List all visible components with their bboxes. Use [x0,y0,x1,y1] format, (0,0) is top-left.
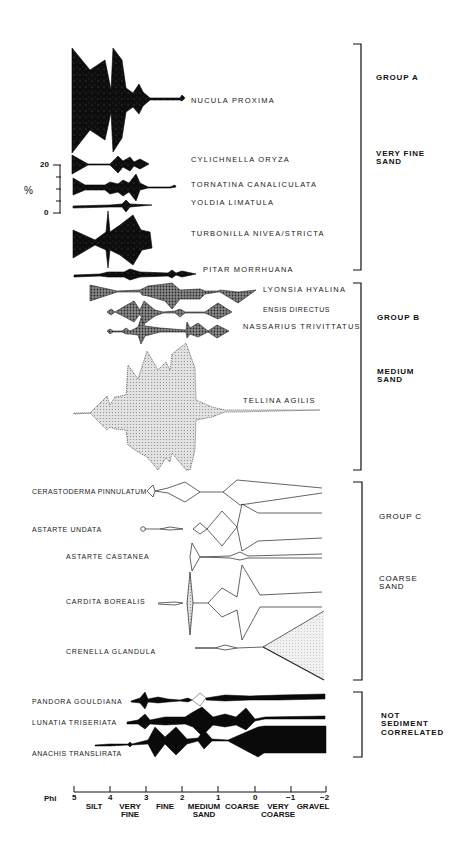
species-label: PANDORA GOULDIANA [32,698,123,705]
kite-turbonilla-nivea-stricta [73,211,152,268]
species-label: LUNATIA TRISERIATA [32,719,117,726]
scale-max-label: 20 [40,161,49,169]
class-coarse: COARSE [224,803,260,811]
class-gravel: GRAVEL [296,803,330,811]
group-b-title: GROUP B [377,314,420,322]
phi-tick-neg1: −1 [286,794,295,802]
class-very-coarse: VERY COARSE [260,803,296,820]
group-brackets [353,44,362,757]
kite-tellina-agilis [74,343,320,470]
species-label: YOLDIA LIMATULA [191,199,274,207]
kite-cerastoderma-pinnulatum [147,480,322,505]
phi-tick-5: 5 [72,794,76,802]
kite-yoldia-limatula [73,200,152,212]
kite-astarte-castanea [190,543,322,571]
scale-unit-label: % [24,186,33,196]
group-c-title: GROUP C [379,513,422,521]
phi-axis-label: Phi [44,795,56,803]
class-silt: SILT [82,803,106,811]
kite-lyonsia-hyalina [90,283,256,309]
species-label: CYLICHNELLA ORYZA [191,156,290,164]
class-fine: FINE [153,803,177,811]
species-label: LYONSIA HYALINA [263,286,346,294]
kite-nassarius-trivittatus [107,318,229,344]
phi-tick-1: 1 [216,794,220,802]
species-label: CRENELLA GLANDULA [66,648,156,655]
group-a-title: GROUP A [376,74,419,82]
species-label: ASTARTE CASTANEA [66,553,150,560]
kite-anachis-translirata [95,726,326,757]
species-label: PITAR MORRHUANA [203,266,294,274]
species-label: TORNATINA CANALICULATA [191,181,317,189]
kite-tornatina-canaliculata [73,174,176,201]
species-label: ENSIS DIRECTUS [263,306,330,313]
species-label: ANACHIS TRANSLIRATA [32,750,122,757]
species-label: CARDITA BOREALIS [66,598,146,605]
kite-crenella-glandula [195,611,324,680]
kite-pitar-morrhuana [74,269,196,280]
species-label: TELLINA AGILIS [243,397,316,405]
kite-pandora-gouldiana [131,692,325,709]
scale-min-label: 0 [44,209,48,217]
percent-scale-bar [53,165,61,213]
phi-tick-neg2: −2 [320,794,329,802]
group-c-sediment: COARSE SAND [379,575,418,592]
class-very-fine: VERY FINE [115,803,145,820]
phi-tick-3: 3 [144,794,148,802]
species-label: ASTARTE UNDATA [32,526,102,533]
group-a-sediment: VERY FINE SAND [376,150,425,167]
phi-tick-2: 2 [180,794,184,802]
species-label: NUCULA PROXIMA [191,97,275,105]
species-label: NASSARIUS TRIVITTATUS [243,323,361,331]
kite-nucula-proxima [72,48,185,153]
species-label: TURBONILLA NIVEA/STRICTA [191,230,325,238]
not-correlated-label: NOT SEDIMENT CORRELATED [381,712,444,737]
phi-tick-4: 4 [108,794,112,802]
class-medium-sand: MEDIUM SAND [184,803,224,820]
phi-tick-0: 0 [253,794,257,802]
group-b-sediment: MEDIUM SAND [377,368,414,385]
phi-axis [74,786,326,792]
species-label: CERASTODERMA PINNULATUM [32,488,147,495]
kite-cylichnella-oryza [72,155,149,174]
kite-astarte-undata [141,504,322,551]
